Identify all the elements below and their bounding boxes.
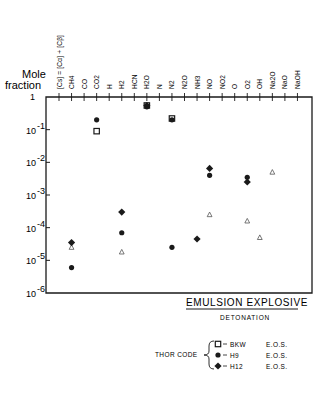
species-label: NO (206, 79, 213, 89)
species-label: CO2 (93, 75, 100, 89)
filled-circle-marker-icon (169, 117, 174, 122)
open-square-marker-icon (215, 341, 220, 346)
legend-code: BKW (230, 341, 246, 348)
filled-circle-marker-icon (207, 173, 212, 178)
y-axis-title: Mole fraction (5, 68, 46, 91)
y-tick-label: 10 (26, 256, 36, 266)
y-tick-label: 10 (26, 224, 36, 234)
open-square-marker-icon (94, 128, 99, 133)
species-label: NaO (281, 75, 288, 89)
open-triangle-marker-icon (207, 212, 212, 217)
caption-emulsion-explosive: EMULSION EXPLOSIVE (186, 297, 308, 308)
species-label: N2 (168, 80, 175, 89)
species-label: N (156, 84, 163, 89)
y-tick-exponent: -6 (37, 284, 45, 294)
legend-code: H12 (230, 363, 243, 370)
legend-code: H9 (230, 352, 239, 359)
species-label: NaOH (294, 70, 301, 89)
y-tick-exponent: -1 (37, 121, 45, 131)
species-column-labels: [Cs] = [Cα] + [Cβ]CH4COCO2HH2HCNH2ONN2N2… (56, 35, 301, 101)
title-line-2: fraction (5, 79, 41, 91)
filled-diamond-marker-icon (118, 208, 125, 215)
species-label: N2O (181, 75, 188, 89)
open-triangle-marker-icon (245, 218, 250, 223)
plot-frame (46, 97, 312, 293)
species-label: O (231, 84, 238, 89)
species-label: H2O (143, 75, 150, 89)
legend-group-label: THOR CODE (155, 351, 198, 358)
mole-fraction-chart: Mole fraction 110-110-210-310-410-510-6 … (0, 0, 333, 396)
y-tick-label: 10 (26, 158, 36, 168)
plot-border (46, 97, 312, 293)
legend-eos: E.O.S. (266, 352, 288, 359)
y-tick-label: 1 (30, 92, 35, 102)
species-label: H2 (118, 80, 125, 89)
legend-brace-icon (204, 341, 214, 369)
y-tick-label: 10 (26, 126, 36, 136)
y-tick-exponent: -5 (37, 251, 45, 261)
filled-circle-marker-icon (215, 352, 220, 357)
open-triangle-marker-icon (257, 235, 262, 240)
data-points (68, 102, 275, 270)
filled-diamond-marker-icon (244, 178, 251, 185)
caption-detonation: DETONATION (220, 314, 270, 321)
legend-eos: E.O.S. (266, 363, 288, 370)
legend-eos: E.O.S. (266, 341, 288, 348)
filled-diamond-marker-icon (206, 165, 213, 172)
filled-circle-marker-icon (94, 117, 99, 122)
filled-circle-marker-icon (69, 265, 74, 270)
y-tick-exponent: -3 (37, 186, 45, 196)
open-triangle-marker-icon (270, 170, 275, 175)
species-label: H (106, 84, 113, 89)
species-label: O2 (244, 80, 251, 89)
y-tick-exponent: -2 (37, 153, 45, 163)
filled-diamond-marker-icon (214, 362, 221, 369)
legend: THOR CODE BKWE.O.S.H9E.O.S.H12E.O.S. (155, 341, 288, 370)
filled-diamond-marker-icon (68, 239, 75, 246)
y-tick-label: 10 (26, 289, 36, 299)
species-label: CH4 (68, 75, 75, 89)
species-label: NH3 (194, 75, 201, 89)
caption: EMULSION EXPLOSIVE DETONATION (186, 297, 308, 321)
y-tick-exponent: -4 (37, 219, 45, 229)
species-label: Na2O (269, 71, 276, 89)
open-triangle-marker-icon (119, 249, 124, 254)
filled-circle-marker-icon (169, 245, 174, 250)
species-label: CO (81, 79, 88, 89)
y-tick-label: 10 (26, 191, 36, 201)
species-label: NO2 (219, 75, 226, 89)
species-label: OH (256, 79, 263, 89)
species-label: HCN (131, 74, 138, 89)
filled-circle-marker-icon (119, 230, 124, 235)
species-label: [Cs] = [Cα] + [Cβ] (56, 35, 64, 89)
filled-diamond-marker-icon (193, 235, 200, 242)
